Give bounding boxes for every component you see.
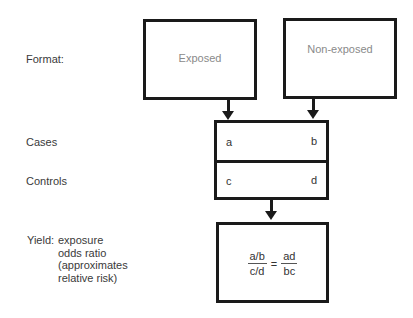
format-label: Format: <box>26 53 64 65</box>
fraction-left: a/b c/d <box>248 250 267 277</box>
yield-label: Yield: <box>27 234 54 246</box>
result-arrow-icon <box>265 211 277 220</box>
yield-line-2: odds ratio <box>58 247 128 260</box>
fraction-left-numerator: a/b <box>248 250 267 264</box>
table-divider <box>217 160 326 163</box>
non-exposed-arrow-icon <box>307 110 319 119</box>
non-exposed-box: Non-exposed <box>283 18 397 99</box>
cell-c: c <box>226 175 232 187</box>
equals-sign: = <box>271 258 277 270</box>
cell-b: b <box>311 135 317 147</box>
yield-description: exposure odds ratio (approximates relati… <box>58 234 128 284</box>
odds-ratio-formula: a/b c/d = ad bc <box>219 250 326 277</box>
exposed-arrow-icon <box>222 111 234 120</box>
yield-line-1: exposure <box>58 234 128 247</box>
exposed-box-title: Exposed <box>146 52 254 64</box>
controls-label: Controls <box>26 175 67 187</box>
fraction-right: ad bc <box>281 250 297 277</box>
exposed-box: Exposed <box>143 19 257 100</box>
fraction-right-numerator: ad <box>281 250 297 264</box>
fraction-left-denominator: c/d <box>250 264 265 277</box>
contingency-table: a b c d <box>214 120 329 200</box>
yield-line-3: (approximates <box>58 259 128 272</box>
non-exposed-box-title: Non-exposed <box>286 43 394 55</box>
cases-label: Cases <box>26 136 57 148</box>
fraction-right-denominator: bc <box>284 264 296 277</box>
odds-ratio-box: a/b c/d = ad bc <box>216 222 329 303</box>
cell-a: a <box>226 136 232 148</box>
cell-d: d <box>311 174 317 186</box>
yield-line-4: relative risk) <box>58 272 128 285</box>
